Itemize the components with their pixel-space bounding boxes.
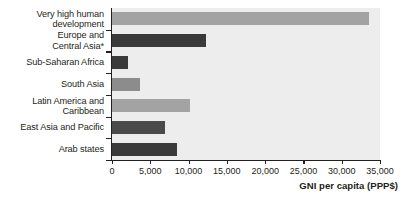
x-axis-title: GNI per capita (PPP$)	[299, 180, 398, 191]
bar	[112, 78, 140, 91]
x-tick-label: 5,000	[139, 166, 162, 176]
x-tick	[227, 160, 228, 164]
x-tick	[303, 160, 304, 164]
x-tick-label: 10,000	[175, 166, 203, 176]
y-axis-line	[111, 8, 112, 160]
x-tick-label: 30,000	[328, 166, 356, 176]
x-tick	[150, 160, 151, 164]
x-tick-label: 25,000	[290, 166, 318, 176]
bar	[112, 12, 369, 25]
x-tick	[112, 160, 113, 164]
bar	[112, 99, 190, 112]
x-tick-label: 0	[109, 166, 114, 176]
category-label: Europe and Central Asia*	[0, 30, 104, 50]
x-tick-label: 15,000	[213, 166, 241, 176]
bar	[112, 143, 177, 156]
category-label: Very high human development	[0, 9, 104, 29]
category-label: Sub-Saharan Africa	[0, 57, 104, 67]
x-tick	[342, 160, 343, 164]
x-tick-label: 35,000	[366, 166, 394, 176]
plot-area	[112, 8, 380, 160]
x-tick	[189, 160, 190, 164]
category-label: East Asia and Pacific	[0, 122, 104, 132]
x-tick	[265, 160, 266, 164]
category-axis-labels: Very high human developmentEurope and Ce…	[0, 8, 108, 160]
x-tick	[380, 160, 381, 164]
category-label: Arab states	[0, 144, 104, 154]
x-tick-label: 20,000	[251, 166, 279, 176]
bar	[112, 121, 165, 134]
bar-chart: Very high human developmentEurope and Ce…	[0, 0, 406, 204]
category-label: Latin America and Caribbean	[0, 96, 104, 116]
bar	[112, 56, 128, 69]
bar	[112, 34, 206, 47]
category-label: South Asia	[0, 79, 104, 89]
